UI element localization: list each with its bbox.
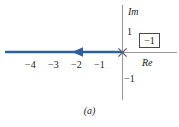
- tick-label-re-minus-2: −2: [71, 60, 82, 70]
- axis-label-imaginary: Im: [128, 7, 139, 17]
- tick-label-re-minus-4: −4: [25, 60, 36, 70]
- tick-label-re-minus-3: −3: [48, 60, 59, 70]
- tick-label-im-minus-1: −1: [124, 74, 135, 84]
- direction-arrow-icon: [72, 47, 83, 57]
- tick-label-im-plus-1: 1: [127, 27, 132, 37]
- axis-label-real: Re: [142, 58, 153, 68]
- root-locus-figure: −4 −3 −2 −1 1 −1 Im Re −1 (a): [0, 0, 179, 127]
- tick-label-re-minus-1: −1: [94, 60, 105, 70]
- figure-caption: (a): [0, 105, 179, 116]
- boxed-annotation-minus-1: −1: [139, 33, 160, 48]
